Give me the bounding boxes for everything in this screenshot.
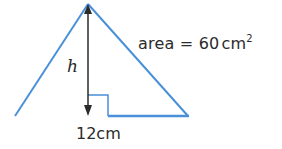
height-label: h: [67, 56, 78, 76]
height-arrow-down-head: [84, 105, 92, 116]
triangle-diagram: area = 60cm2 h 12cm: [0, 0, 282, 149]
base-label: 12cm: [76, 124, 121, 143]
area-value: area = 60: [138, 34, 219, 53]
area-unit: cm: [221, 34, 246, 53]
triangle-right-side: [88, 4, 188, 116]
area-exponent: 2: [246, 33, 253, 44]
area-label: area = 60cm2: [138, 34, 253, 53]
triangle-figure: [0, 0, 282, 149]
